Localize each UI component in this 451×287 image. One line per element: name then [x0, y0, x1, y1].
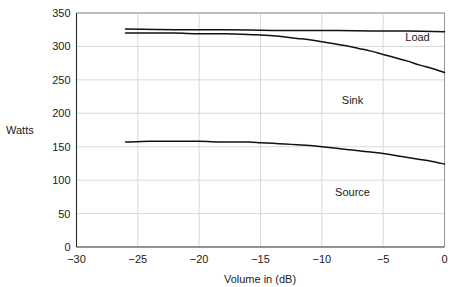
x-axis-title: Volume in (dB)	[224, 273, 296, 285]
watts-vs-volume-chart: −30−25−20−15−10−50 050100150200250300350…	[0, 0, 451, 287]
y-tick-label: 300	[52, 40, 70, 52]
y-tick-label: 250	[52, 74, 70, 86]
y-axis-title: Watts	[6, 124, 34, 136]
x-tick-label: 0	[441, 253, 447, 265]
y-tick-label: 100	[52, 174, 70, 186]
x-tick-label: −20	[190, 253, 209, 265]
annotation-source: Source	[335, 186, 370, 198]
x-tick-label: −25	[128, 253, 147, 265]
x-tick-label: −5	[377, 253, 390, 265]
y-tick-label: 50	[58, 208, 70, 220]
y-tick-label: 350	[52, 7, 70, 19]
y-tick-label: 150	[52, 141, 70, 153]
x-tick-label: −10	[312, 253, 331, 265]
chart-figure: −30−25−20−15−10−50 050100150200250300350…	[0, 0, 451, 287]
y-tick-label: 200	[52, 107, 70, 119]
x-tick-label: −15	[251, 253, 270, 265]
x-tick-label: −30	[67, 253, 86, 265]
annotation-sink: Sink	[342, 94, 364, 106]
y-tick-label: 0	[64, 241, 70, 253]
annotation-load: Load	[405, 31, 429, 43]
